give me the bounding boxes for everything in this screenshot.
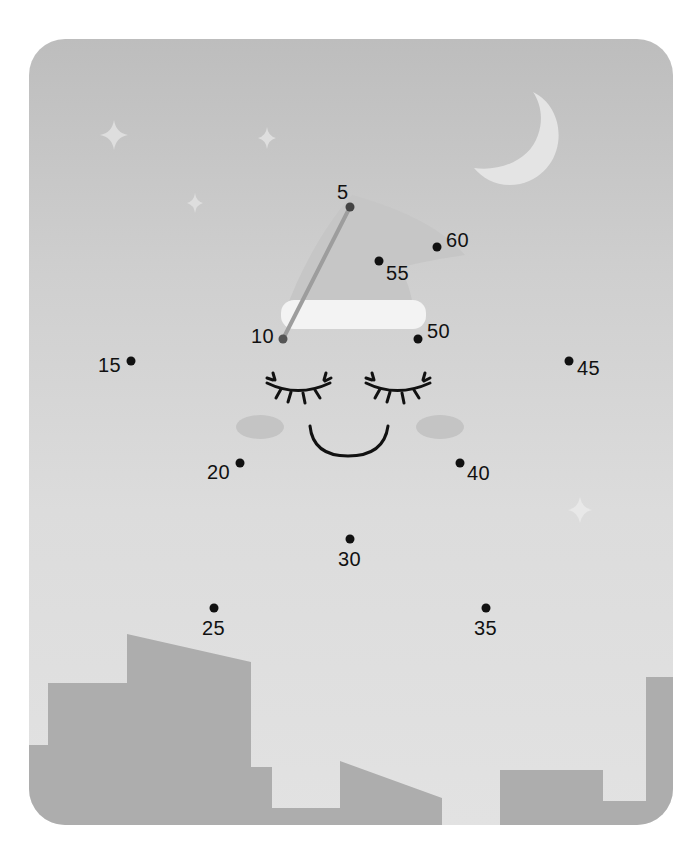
dot-label-55: 55 (386, 263, 409, 283)
dot-label-20: 20 (207, 462, 230, 482)
smile (310, 426, 388, 456)
dot-label-10: 10 (251, 326, 274, 346)
dot-label-35: 35 (474, 618, 497, 638)
crescent-moon-icon (474, 92, 559, 185)
nightcap-hat (285, 195, 465, 312)
city-skyline (29, 634, 673, 825)
sparkle-icon (258, 127, 276, 149)
dot-5[interactable] (346, 203, 355, 212)
dot-20[interactable] (236, 459, 245, 468)
dot-label-50: 50 (427, 321, 450, 341)
dot-label-45: 45 (577, 358, 600, 378)
sparkle-icon (100, 120, 128, 150)
left-cheek (236, 415, 284, 439)
dot-label-15: 15 (98, 355, 121, 375)
right-cheek (416, 415, 464, 439)
building-right (500, 677, 673, 825)
right-eye-icon (366, 373, 430, 403)
dot-30[interactable] (346, 535, 355, 544)
dot-50[interactable] (414, 335, 423, 344)
dot-10[interactable] (279, 335, 288, 344)
sparkle-icon (568, 497, 592, 523)
dot-45[interactable] (565, 357, 574, 366)
dot-25[interactable] (210, 604, 219, 613)
dot-label-25: 25 (202, 618, 225, 638)
dot-label-5: 5 (337, 182, 349, 202)
dot-60[interactable] (433, 243, 442, 252)
dot-55[interactable] (375, 257, 384, 266)
sparkle-icon (187, 193, 203, 213)
dot-label-30: 30 (338, 549, 361, 569)
building-left (29, 634, 442, 825)
dot-40[interactable] (456, 459, 465, 468)
dot-label-40: 40 (467, 463, 490, 483)
dot-label-60: 60 (446, 230, 469, 250)
closed-eyes (267, 373, 430, 403)
puzzle-card (29, 39, 673, 825)
dot-15[interactable] (127, 357, 136, 366)
left-eye-icon (267, 373, 331, 403)
scene-illustration (29, 39, 673, 825)
dot-35[interactable] (482, 604, 491, 613)
